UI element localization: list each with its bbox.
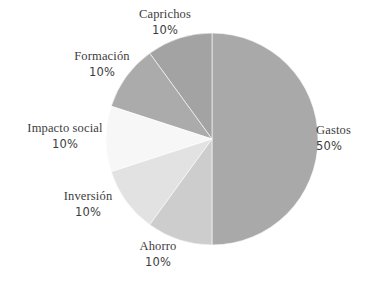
slice-label-ahorro-name: Ahorro	[108, 238, 208, 254]
slice-label-formacion-value: 10%	[50, 65, 154, 80]
slice-label-inversion-name: Inversión	[36, 188, 140, 204]
slice-label-gastos-value: 50%	[316, 139, 376, 154]
slice-label-gastos-name: Gastos	[316, 122, 376, 138]
slice-label-inversion: Inversión 10%	[36, 188, 140, 220]
slice-label-gastos: Gastos 50%	[316, 122, 376, 154]
slice-label-formacion: Formación 10%	[50, 48, 154, 80]
slice-label-caprichos: Caprichos 10%	[115, 6, 215, 38]
slice-label-impacto-social: Impacto social 10%	[5, 120, 125, 152]
slice-label-formacion-name: Formación	[50, 48, 154, 64]
pie-slice-gastos[interactable]	[212, 33, 318, 245]
slice-label-caprichos-name: Caprichos	[115, 6, 215, 22]
slice-label-impacto-social-value: 10%	[5, 137, 125, 152]
slice-label-inversion-value: 10%	[36, 205, 140, 220]
slice-label-caprichos-value: 10%	[115, 23, 215, 38]
slice-label-ahorro-value: 10%	[108, 255, 208, 270]
slice-label-ahorro: Ahorro 10%	[108, 238, 208, 270]
pie-chart: Caprichos 10% Formación 10% Impacto soci…	[0, 0, 376, 285]
slice-label-impacto-social-name: Impacto social	[5, 120, 125, 136]
